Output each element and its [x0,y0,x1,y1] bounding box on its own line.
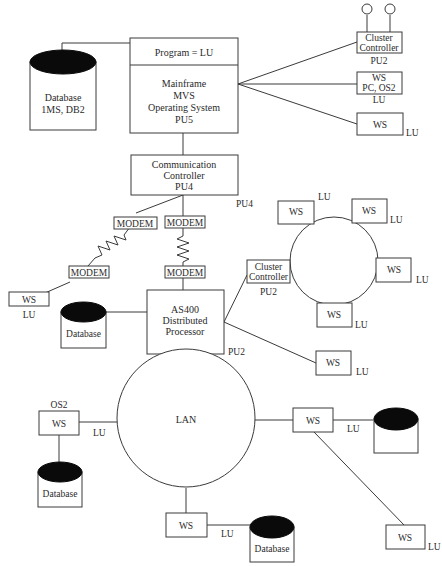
as400-processor: AS400 Distributed Processor PU2 [147,290,245,357]
pu-label: PU2 [371,56,388,66]
controller-label: Controller [163,170,205,181]
cluster-label: Cluster [255,262,283,272]
lu-label: LU [347,424,360,434]
modem-lower-right: MODEM [165,266,205,278]
database-cylinder-icon [250,516,294,538]
workstation-lan-right: WS LU [293,408,360,434]
lan-network: LAN [117,349,255,487]
database-cylinder-icon [38,462,82,482]
pu4-outside-label: PU4 [236,199,253,209]
database-os2: Database [38,462,82,507]
as400-label: AS400 [171,304,199,315]
database-cylinder-icon [374,408,418,430]
workstation-far-right: WS LU [386,525,441,552]
ws-label: WS [22,295,36,305]
program-label: Program = LU [155,47,214,58]
ws-label: WS [306,416,320,426]
modem-label: MODEM [117,219,154,229]
lu-label: LU [406,128,419,138]
ws-label: WS [289,207,303,217]
database-sublabel: 1MS, DB2 [41,104,84,115]
lu-label: LU [355,320,368,330]
ws-label: WS [362,206,376,216]
ws-label: WS [373,120,387,130]
ws-label: WS [398,533,412,543]
ws-label: WS [52,419,66,429]
database-label: Database [43,489,78,499]
pu2-label: PU2 [260,287,277,297]
pu2-label: PU2 [228,347,245,357]
communication-controller: Communication Controller PU4 PU4 [131,155,253,209]
database-cylinder-icon [61,302,106,322]
ws-label: WS [387,265,401,275]
database-label: Database [66,329,101,339]
token-ring: Cluster Controller PU2 WS LU WS LU WS LU… [247,192,429,330]
lu-label: LU [221,529,234,539]
modem-label: MODEM [167,268,204,278]
workstation-as400-right: WS LU [316,351,369,377]
ws-os-label: PC, OS2 [362,83,396,93]
modem-upper-left: MODEM [114,217,157,229]
ring-icon [290,217,378,305]
mainframe-os: MVS [173,90,195,101]
database-label: Database [45,92,82,103]
lan-label: LAN [176,414,197,425]
mainframe-node: Program = LU Mainframe MVS Operating Sys… [130,38,238,133]
network-diagram: Database 1MS, DB2 Program = LU Mainframe… [0,0,442,566]
cluster-label: Cluster [365,33,393,43]
workstation-lan-bottom: WS LU [166,513,234,539]
ws-label: WS [326,358,340,368]
terminal-icon [362,4,372,14]
ws-label: WS [372,73,386,83]
database-right [374,408,418,453]
modem-upper-right: MODEM [165,216,205,228]
controller-label: Controller [359,43,399,53]
ws-label: WS [179,521,193,531]
lu-label: LU [356,367,369,377]
pu4-label: PU4 [175,181,193,192]
workstation-left: WS LU [9,292,49,320]
terminal-icon [385,4,395,14]
database-cylinder-icon [30,50,96,74]
mainframe-os-label: Operating System [148,102,220,113]
modem-label: MODEM [167,218,204,228]
mainframe-title: Mainframe [162,78,207,89]
database-label: Database [255,544,290,554]
lu-label: LU [428,542,441,552]
comm-label: Communication [152,159,216,170]
modem-label: MODEM [71,268,108,278]
ws-label: WS [327,310,341,320]
mainframe-pu: PU5 [175,114,193,125]
database-as400: Database [61,302,106,348]
lu-label: LU [373,95,386,105]
cluster-controller-top: Cluster Controller PU2 [357,4,402,66]
os2-label: OS2 [51,400,68,410]
database-bottom: Database [250,516,294,562]
lu-label: LU [318,192,331,202]
modem-lower-left: MODEM [69,266,109,278]
lu-label: LU [23,310,36,320]
distributed-label: Distributed [163,315,208,326]
database-ims-db2: Database 1MS, DB2 [30,50,96,130]
lu-label: LU [390,215,403,225]
controller-label: Controller [249,272,289,282]
lu-label: LU [93,428,106,438]
lu-label: LU [416,275,429,285]
processor-label: Processor [166,326,206,337]
workstation-pc-os2: WS PC, OS2 LU [357,72,402,105]
workstation-os2: OS2 WS LU [39,400,106,438]
workstation-top: WS LU [357,113,419,138]
